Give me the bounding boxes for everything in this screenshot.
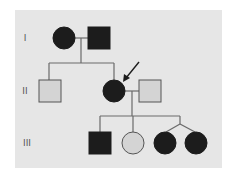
individual-iii3-affected-twin-female bbox=[154, 132, 176, 154]
proband-arrow-icon bbox=[123, 62, 139, 82]
individual-ii1-unaffected-male bbox=[39, 80, 61, 102]
individual-ii3-unaffected-male bbox=[139, 80, 161, 102]
generation-label-iii: III bbox=[23, 138, 31, 148]
individual-i1-affected-female bbox=[53, 27, 75, 49]
twin-line-iii4 bbox=[180, 124, 195, 132]
individual-i2-affected-male bbox=[88, 27, 110, 49]
individual-ii2-proband-affected-female bbox=[103, 80, 125, 102]
twin-line-iii3 bbox=[166, 124, 180, 132]
generation-label-ii: II bbox=[22, 86, 27, 96]
individual-iii2-unaffected-female bbox=[122, 132, 144, 154]
individual-iii4-affected-twin-female bbox=[185, 132, 207, 154]
individual-iii1-affected-male bbox=[89, 132, 111, 154]
generation-label-i: I bbox=[24, 33, 27, 43]
pedigree-chart: I II III bbox=[0, 0, 234, 174]
